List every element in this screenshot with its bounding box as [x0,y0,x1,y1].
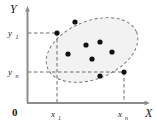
y-tick-upper-base: y [7,28,12,38]
data-point [121,69,126,74]
y-tick-lower-base: y [7,67,12,77]
scatter-figure: Y X 0 y 1 y n x 1 x n [0,0,157,124]
x-axis-label: X [144,106,153,120]
y-tick-upper: y 1 [7,28,19,40]
data-point [54,30,59,35]
y-tick-lower-subscript: n [16,73,19,79]
correlation-ellipse [37,5,148,95]
correlation-ellipse-group [37,5,148,95]
data-point [97,73,102,78]
origin-label: 0 [12,106,18,118]
y-axis-label: Y [10,2,18,16]
y-tick-lower: y n [7,67,19,79]
x-axis-arrowhead [145,101,151,106]
y-tick-upper-subscript: 1 [16,34,19,40]
x-tick-left-base: x [50,109,55,119]
data-point [109,49,114,54]
data-point [89,56,94,61]
x-tick-right-base: x [117,109,122,119]
y-axis-arrowhead [25,6,30,12]
data-point [83,42,88,47]
x-tick-left: x 1 [50,109,61,121]
x-tick-right-subscript: n [125,115,128,121]
data-point [65,51,70,56]
figure-canvas: Y X 0 y 1 y n x 1 x n [0,0,157,124]
data-point [72,19,77,24]
x-tick-left-subscript: 1 [58,115,61,121]
data-point [97,39,102,44]
x-tick-right: x n [117,109,128,121]
